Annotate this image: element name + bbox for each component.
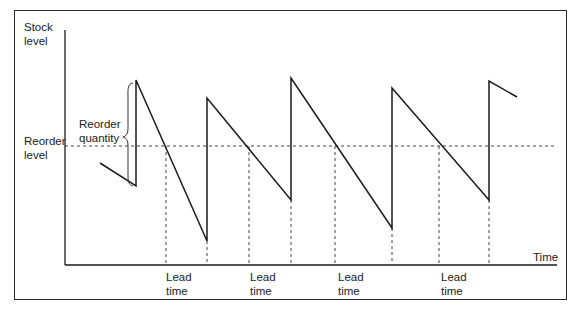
- reorder-quantity-brace: [123, 83, 133, 186]
- lead-time-label: Leadtime: [441, 270, 467, 298]
- reorder-quantity-label: Reorderquantity: [79, 117, 121, 145]
- reorder-level-label: Reorderlevel: [24, 134, 66, 162]
- y-axis-label: Stocklevel: [24, 20, 53, 48]
- lead-time-label: Leadtime: [166, 270, 192, 298]
- stock-level-line: [100, 78, 517, 241]
- lead-time-label: Leadtime: [338, 270, 364, 298]
- lead-time-markers: [166, 146, 489, 265]
- stock-level-chart: [0, 0, 581, 311]
- lead-time-label: Leadtime: [250, 270, 276, 298]
- x-axis-label: Time: [533, 250, 558, 264]
